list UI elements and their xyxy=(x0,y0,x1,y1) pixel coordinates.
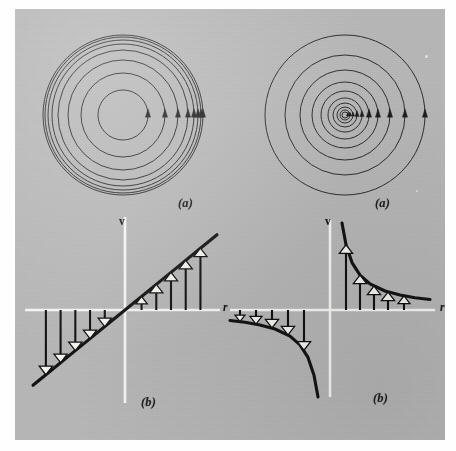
plate-speck xyxy=(416,190,418,192)
streamline-free-vortex-arrowhead xyxy=(422,109,427,117)
y-axis-label-left: v xyxy=(119,215,125,227)
panel-top-left-streamlines xyxy=(15,9,230,209)
streamline-free-vortex-circle xyxy=(285,55,405,175)
streamline-free-vortex-arrowhead xyxy=(387,109,392,117)
streamline-solid-body-circle xyxy=(48,40,198,190)
y-axis-label-right: v xyxy=(325,215,331,227)
streamline-solid-body-circle xyxy=(58,50,188,180)
streamline-free-vortex-arrowhead xyxy=(366,109,371,117)
panel-top-right-streamlines xyxy=(230,9,445,209)
x-axis-label-right: r xyxy=(440,301,444,313)
panel-bottom-right-profile xyxy=(230,207,445,440)
figure-plate: (a) (a) v r (b) v r (b) xyxy=(15,9,445,440)
panel-bottom-left-profile xyxy=(15,207,230,440)
plate-speck xyxy=(425,55,428,58)
x-axis-label-left: r xyxy=(223,301,227,313)
streamline-solid-body-arrowhead xyxy=(175,109,180,117)
streamline-solid-body-circle xyxy=(68,60,178,170)
profile-hyperbolic-curve xyxy=(342,223,430,300)
streamline-free-vortex-arrowhead xyxy=(402,109,407,117)
streamline-solid-body-circle xyxy=(52,44,194,186)
streamline-solid-body-arrowhead xyxy=(185,109,190,117)
streamline-free-vortex-arrowhead xyxy=(351,112,354,116)
streamline-solid-body-circle xyxy=(81,73,165,157)
streamline-free-vortex-arrowhead xyxy=(355,111,359,117)
streamline-solid-body-arrowhead xyxy=(145,109,150,117)
streamline-solid-body-arrowhead xyxy=(162,109,167,117)
caption-bottom-right: (b) xyxy=(373,391,388,406)
streamline-free-vortex-arrowhead xyxy=(375,109,380,117)
streamline-solid-body-circle xyxy=(98,90,148,140)
streamline-free-vortex-arrowhead xyxy=(360,111,364,117)
profile-hyperbolic-vector-head xyxy=(339,245,352,254)
figure-root: (a) (a) v r (b) v r (b) xyxy=(0,0,456,451)
streamline-free-vortex-circle xyxy=(265,35,425,195)
caption-bottom-left: (b) xyxy=(141,395,156,410)
